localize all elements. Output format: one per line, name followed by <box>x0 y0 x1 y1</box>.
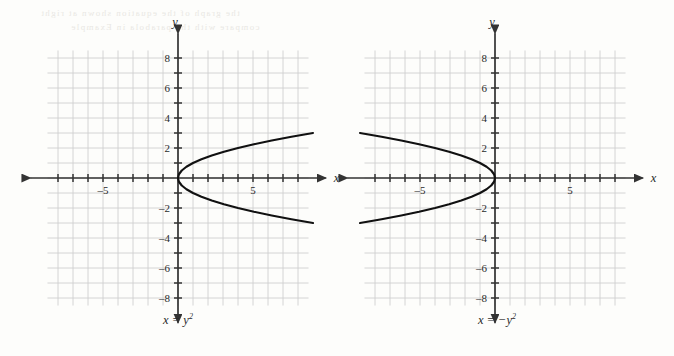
x-tick-label: –5 <box>97 184 110 196</box>
axis-names: xy <box>487 15 657 185</box>
y-tick-label: 4 <box>165 112 171 124</box>
y-tick-label: –2 <box>158 202 170 214</box>
y-tick-label: –6 <box>158 262 171 274</box>
y-tick-label: 4 <box>482 112 488 124</box>
x-tick-label: 5 <box>250 184 256 196</box>
graph-panel-left: 5–52468–2–4–6–8xy x = y2 <box>0 0 337 356</box>
y-tick-label: 8 <box>165 52 171 64</box>
y-tick-label: 2 <box>482 142 488 154</box>
caption-left: x = y2 <box>108 312 248 328</box>
y-tick-label: 6 <box>482 82 488 94</box>
y-axis-label: y <box>487 15 495 29</box>
caption-left-text: x = y <box>163 313 189 327</box>
y-tick-label: 2 <box>165 142 171 154</box>
y-tick-label: –4 <box>158 232 171 244</box>
y-tick-label: –8 <box>475 292 488 304</box>
caption-left-exponent: 2 <box>189 312 193 321</box>
caption-right-text: x = −y <box>478 313 512 327</box>
y-tick-label: –2 <box>475 202 487 214</box>
x-tick-label: –5 <box>414 184 427 196</box>
y-tick-label: 6 <box>165 82 171 94</box>
caption-right: x = −y2 <box>427 312 567 328</box>
figure-page: the graph of the equation shown at right… <box>0 0 674 356</box>
y-tick-label: –8 <box>158 292 171 304</box>
y-tick-label: 8 <box>482 52 488 64</box>
caption-right-exponent: 2 <box>512 312 516 321</box>
x-tick-label: 5 <box>567 184 573 196</box>
plot-area-left: 5–52468–2–4–6–8xy <box>0 0 337 320</box>
y-tick-label: –4 <box>475 232 488 244</box>
axis-names: xy <box>170 15 340 185</box>
graph-panel-right: 5–52468–2–4–6–8xy x = −y2 <box>337 0 674 356</box>
y-tick-label: –6 <box>475 262 488 274</box>
y-axis-label: y <box>170 15 178 29</box>
plot-area-right: 5–52468–2–4–6–8xy <box>337 0 674 320</box>
x-axis-label: x <box>650 171 657 185</box>
